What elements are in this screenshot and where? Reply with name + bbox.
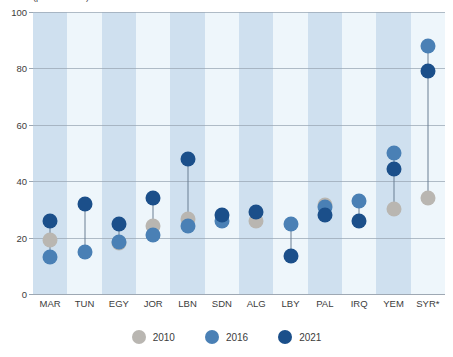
data-point-syr-2010[interactable] bbox=[420, 191, 435, 206]
column-band-egy bbox=[102, 12, 136, 294]
legend-swatch-2016 bbox=[205, 330, 219, 344]
x-tick-label-jor: JOR bbox=[144, 298, 163, 309]
y-tick-mark-20 bbox=[29, 238, 33, 239]
gridline-80 bbox=[33, 68, 445, 69]
legend-label-2010: 2010 bbox=[153, 332, 175, 343]
data-point-yem-2010[interactable] bbox=[386, 202, 401, 217]
x-tick-label-irq: IRQ bbox=[351, 298, 368, 309]
x-tick-label-pal: PAL bbox=[316, 298, 333, 309]
legend-item-2010[interactable]: 2010 bbox=[132, 330, 175, 344]
legend-swatch-2010 bbox=[132, 330, 146, 344]
data-point-lby-2016[interactable] bbox=[283, 216, 298, 231]
data-point-sdn-2021[interactable] bbox=[214, 208, 229, 223]
y-tick-mark-80 bbox=[29, 68, 33, 69]
column-band-irq bbox=[342, 12, 376, 294]
column-band-jor bbox=[136, 12, 170, 294]
x-tick-label-syr: SYR* bbox=[416, 298, 439, 309]
gridline-100 bbox=[33, 12, 445, 13]
y-tick-mark-0 bbox=[29, 294, 33, 295]
y-tick-mark-60 bbox=[29, 125, 33, 126]
cropped-header-text: (percent of ...) bbox=[0, 0, 453, 9]
data-point-syr-2016[interactable] bbox=[420, 38, 435, 53]
y-tick-label-80: 80 bbox=[1, 63, 27, 74]
data-point-pal-2021[interactable] bbox=[317, 208, 332, 223]
data-point-yem-2021[interactable] bbox=[386, 161, 401, 176]
x-tick-label-mar: MAR bbox=[40, 298, 61, 309]
data-point-jor-2016[interactable] bbox=[146, 227, 161, 242]
data-point-syr-2021[interactable] bbox=[420, 64, 435, 79]
column-band-sdn bbox=[205, 12, 239, 294]
y-tick-label-100: 100 bbox=[1, 7, 27, 18]
legend-item-2016[interactable]: 2016 bbox=[205, 330, 248, 344]
data-point-irq-2021[interactable] bbox=[352, 213, 367, 228]
x-tick-label-lbn: LBN bbox=[178, 298, 196, 309]
chart-legend: 201020162021 bbox=[0, 330, 453, 344]
data-point-egy-2016[interactable] bbox=[111, 234, 126, 249]
legend-swatch-2021 bbox=[278, 330, 292, 344]
data-point-jor-2021[interactable] bbox=[146, 191, 161, 206]
cropped-header-label: (percent of ...) bbox=[33, 0, 89, 2]
data-point-alg-2021[interactable] bbox=[249, 205, 264, 220]
x-tick-label-yem: YEM bbox=[383, 298, 404, 309]
data-point-irq-2016[interactable] bbox=[352, 193, 367, 208]
y-tick-label-0: 0 bbox=[1, 289, 27, 300]
x-axis: MARTUNEGYJORLBNSDNALGLBYPALIRQYEMSYR* bbox=[33, 298, 445, 314]
x-tick-label-alg: ALG bbox=[247, 298, 266, 309]
y-tick-label-60: 60 bbox=[1, 119, 27, 130]
data-point-yem-2016[interactable] bbox=[386, 146, 401, 161]
data-point-tun-2016[interactable] bbox=[77, 244, 92, 259]
chart-container: (percent of ...) 020406080100 MARTUNEGYJ… bbox=[0, 0, 453, 357]
x-tick-label-egy: EGY bbox=[109, 298, 129, 309]
legend-label-2016: 2016 bbox=[226, 332, 248, 343]
column-band-pal bbox=[308, 12, 342, 294]
data-point-mar-2021[interactable] bbox=[43, 213, 58, 228]
plot-area bbox=[33, 12, 445, 294]
gridline-40 bbox=[33, 181, 445, 182]
x-tick-label-lby: LBY bbox=[282, 298, 300, 309]
data-point-lbn-2021[interactable] bbox=[180, 151, 195, 166]
data-point-lby-2021[interactable] bbox=[283, 248, 298, 263]
data-point-mar-2010[interactable] bbox=[43, 233, 58, 248]
data-point-tun-2021[interactable] bbox=[77, 196, 92, 211]
gridline-20 bbox=[33, 238, 445, 239]
x-tick-label-tun: TUN bbox=[75, 298, 95, 309]
y-tick-mark-100 bbox=[29, 12, 33, 13]
y-tick-label-20: 20 bbox=[1, 232, 27, 243]
x-tick-label-sdn: SDN bbox=[212, 298, 232, 309]
column-band-alg bbox=[239, 12, 273, 294]
y-tick-label-40: 40 bbox=[1, 176, 27, 187]
legend-item-2021[interactable]: 2021 bbox=[278, 330, 321, 344]
legend-label-2021: 2021 bbox=[299, 332, 321, 343]
data-point-egy-2021[interactable] bbox=[111, 216, 126, 231]
data-point-mar-2016[interactable] bbox=[43, 250, 58, 265]
data-point-lbn-2016[interactable] bbox=[180, 219, 195, 234]
y-tick-mark-40 bbox=[29, 181, 33, 182]
gridline-60 bbox=[33, 125, 445, 126]
gridline-0 bbox=[33, 294, 445, 295]
